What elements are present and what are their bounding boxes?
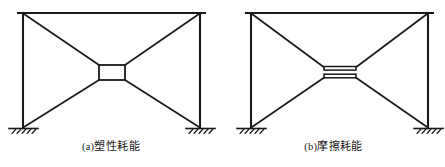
caption-text-b: 摩擦耗能 — [317, 140, 363, 153]
figure-panel-a: (a)塑性耗能 — [0, 0, 222, 167]
plastic-damper-box-a — [99, 65, 125, 80]
brace-upper-left-a — [24, 14, 99, 65]
friction-plate-upper-b — [324, 67, 356, 71]
frame-diagram-a — [0, 0, 222, 138]
friction-damper-b — [324, 67, 356, 78]
support-hatching-right-b — [417, 129, 441, 134]
support-left-b — [237, 129, 266, 134]
caption-panel-a: (a)塑性耗能 — [0, 139, 222, 154]
support-left-a — [9, 129, 38, 134]
brace-upper-left-b — [252, 14, 325, 68]
brace-lower-left-b — [252, 77, 325, 127]
frame-diagram-b — [222, 0, 445, 138]
brace-upper-right-b — [355, 14, 427, 68]
caption-tag-b: (b) — [304, 141, 317, 152]
support-right-b — [414, 129, 443, 134]
support-hatching-right-a — [189, 129, 213, 134]
friction-plate-lower-b — [324, 74, 356, 78]
caption-panel-b: (b)摩擦耗能 — [222, 139, 445, 154]
brace-upper-right-a — [125, 14, 199, 65]
brace-lower-right-a — [125, 80, 199, 127]
brace-lower-right-b — [355, 77, 427, 127]
caption-tag-a: (a) — [82, 141, 94, 152]
support-hatching-left-b — [240, 129, 264, 134]
caption-text-a: 塑性耗能 — [94, 140, 140, 153]
figure-root: (a)塑性耗能 — [0, 0, 445, 167]
support-hatching-left-a — [12, 129, 36, 134]
brace-lower-left-a — [24, 80, 99, 127]
support-right-a — [186, 129, 215, 134]
figure-panel-b: (b)摩擦耗能 — [222, 0, 445, 167]
